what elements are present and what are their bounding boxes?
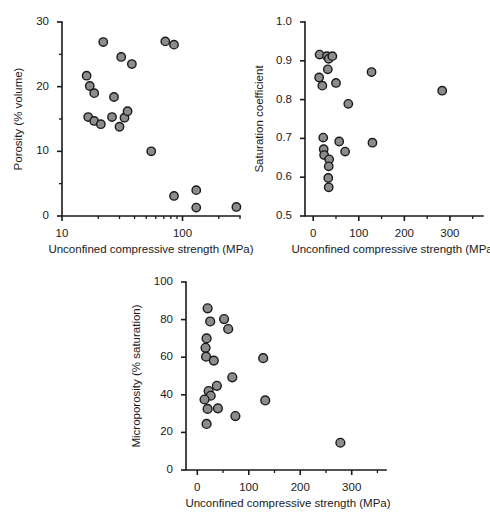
data-point [82, 71, 90, 79]
microporosity-y-axis-title: Microporosity (% saturation) [130, 304, 142, 447]
data-point [192, 203, 200, 211]
data-point [202, 334, 211, 343]
data-point [108, 113, 116, 121]
microporosity-scatter-plot: 020406080100 0100200300 Unconfined compr… [118, 268, 408, 512]
data-point [128, 60, 136, 68]
data-point [115, 123, 123, 131]
data-point [97, 120, 105, 128]
microporosity-markers [200, 304, 345, 447]
data-point [202, 420, 211, 429]
data-point [209, 356, 218, 365]
data-point [110, 93, 118, 101]
data-point [315, 73, 323, 81]
y-tick-label: 60 [160, 350, 173, 362]
data-point [224, 325, 233, 334]
data-point [324, 174, 332, 182]
data-point [206, 317, 215, 326]
x-tick-label: 0 [310, 227, 316, 239]
saturation-scatter-plot: 0.50.60.70.80.91.0 0100200300 Unconfined… [243, 4, 490, 262]
y-tick-label: 0.5 [276, 209, 292, 221]
panel-porosity: 0102030 10100 Unconfined compressive str… [0, 4, 250, 262]
x-tick-label: 100 [239, 481, 258, 493]
data-point [438, 86, 446, 94]
microporosity-x-ticks: 0100200300 [194, 470, 377, 493]
data-point [336, 438, 345, 447]
microporosity-axes [186, 282, 386, 470]
data-point [259, 354, 268, 363]
y-tick-label: 0.9 [276, 54, 292, 66]
data-point [200, 395, 209, 404]
x-tick-label: 100 [173, 227, 192, 239]
data-point [220, 315, 229, 324]
data-point [325, 183, 333, 191]
saturation-x-axis-title: Unconfined compressive strength (MPa) [291, 243, 490, 255]
x-tick-label: 100 [349, 227, 368, 239]
y-tick-label: 100 [154, 275, 173, 287]
x-tick-label: 300 [342, 481, 361, 493]
data-point [214, 404, 223, 413]
data-point [99, 38, 107, 46]
saturation-x-ticks: 0100200300 [310, 216, 473, 239]
porosity-y-ticks: 0102030 [36, 15, 62, 221]
saturation-y-ticks: 0.50.60.70.80.91.0 [276, 15, 305, 221]
x-tick-label: 0 [194, 481, 200, 493]
y-tick-label: 0 [43, 209, 49, 221]
y-tick-label: 40 [160, 388, 173, 400]
data-point [332, 79, 340, 87]
y-tick-label: 80 [160, 313, 173, 325]
y-tick-label: 0.6 [276, 170, 292, 182]
y-tick-label: 0.8 [276, 93, 292, 105]
y-tick-label: 20 [160, 425, 173, 437]
data-point [319, 133, 327, 141]
data-point [147, 147, 155, 155]
panel-saturation: 0.50.60.70.80.91.0 0100200300 Unconfined… [243, 4, 490, 262]
data-point [90, 89, 98, 97]
saturation-y-axis-title: Saturation coefficient [253, 65, 265, 173]
data-point [318, 81, 326, 89]
data-point [367, 68, 375, 76]
data-point [325, 162, 333, 170]
porosity-y-axis-title: Porosity (% volume) [12, 67, 24, 170]
data-point [368, 138, 376, 146]
data-point [335, 137, 343, 145]
x-tick-label: 200 [395, 227, 414, 239]
data-point [192, 186, 200, 194]
data-point [228, 373, 237, 382]
data-point [328, 52, 336, 60]
data-point [212, 381, 221, 390]
data-point [170, 40, 178, 48]
data-point [232, 203, 240, 211]
data-point [117, 53, 125, 61]
saturation-markers [315, 50, 446, 191]
data-point [203, 304, 212, 313]
y-tick-label: 0 [167, 463, 173, 475]
y-tick-label: 30 [36, 15, 49, 27]
porosity-scatter-plot: 0102030 10100 Unconfined compressive str… [0, 4, 250, 262]
porosity-markers [82, 37, 240, 212]
microporosity-x-axis-title: Unconfined compressive strength (MPa) [185, 497, 390, 509]
microporosity-y-ticks: 020406080100 [154, 275, 186, 475]
data-point [231, 412, 240, 421]
porosity-x-ticks: 10100 [56, 216, 240, 239]
y-tick-label: 20 [36, 80, 49, 92]
x-tick-label: 300 [440, 227, 459, 239]
data-point [201, 343, 210, 352]
y-tick-label: 0.7 [276, 131, 292, 143]
y-tick-label: 10 [36, 144, 49, 156]
data-point [123, 107, 131, 115]
porosity-x-axis-title: Unconfined compressive strength (MPa) [48, 243, 253, 255]
data-point [324, 65, 332, 73]
data-point [170, 192, 178, 200]
data-point [341, 147, 349, 155]
microporosity-axis-lines [186, 282, 386, 470]
data-point [344, 100, 352, 108]
figure-container: 0102030 10100 Unconfined compressive str… [0, 0, 490, 512]
data-point [161, 37, 169, 45]
x-tick-label: 200 [291, 481, 310, 493]
panel-microporosity: 020406080100 0100200300 Unconfined compr… [118, 268, 408, 512]
data-point [203, 405, 212, 414]
y-tick-label: 1.0 [276, 15, 292, 27]
x-tick-label: 10 [56, 227, 69, 239]
data-point [261, 396, 270, 405]
